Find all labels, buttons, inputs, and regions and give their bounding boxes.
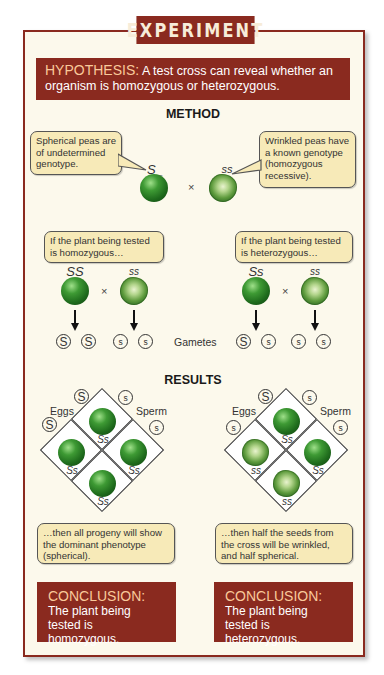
heterozygous-case-callout: If the plant being tested is heterozygou… <box>235 231 353 263</box>
cell-genotype: Ss <box>93 434 113 445</box>
egg-allele-S: S <box>258 389 273 404</box>
gamete-s: s <box>316 334 331 349</box>
arrow-down-icon <box>314 310 316 324</box>
cell-genotype: Ss <box>124 465 144 476</box>
sperm-allele-s: s <box>302 390 317 405</box>
arrow-down-icon <box>133 310 135 324</box>
hypothesis-label: HYPOTHESIS: <box>45 62 139 78</box>
eggs-label: Eggs <box>232 405 256 417</box>
sperm-allele-s: s <box>118 390 133 405</box>
cell-genotype: Ss <box>93 496 113 507</box>
conclusion-heterozygous: CONCLUSION: The plant being tested is he… <box>214 582 353 642</box>
heterozygous-result-callout: …then half the seeds from the cross will… <box>215 523 353 564</box>
cross-symbol: × <box>188 181 194 193</box>
genotype-ss: ss <box>215 163 239 175</box>
arrow-down-icon <box>74 310 76 324</box>
arrow-head-icon <box>71 323 79 331</box>
homozygous-result-callout: …then all progeny will show the dominant… <box>37 523 175 564</box>
spherical-pea-icon <box>242 277 270 305</box>
spherical-pea-icon <box>58 439 85 466</box>
egg-allele-S: S <box>42 417 57 432</box>
gamete-S: S <box>56 334 71 349</box>
cell-genotype: Ss <box>277 434 297 445</box>
cell-genotype: ss <box>277 496 297 507</box>
gamete-s: s <box>291 334 306 349</box>
gametes-label: Gametes <box>174 336 217 348</box>
homozygous-case-callout: If the plant being tested is homozygous… <box>44 231 164 263</box>
cross-symbol: × <box>282 285 288 297</box>
gamete-S: S <box>81 334 96 349</box>
arrow-down-icon <box>255 310 257 324</box>
conclusion-text: The plant being tested is heterozygous. <box>225 604 308 646</box>
cell-genotype: Ss <box>308 465 328 476</box>
wrinkled-callout: Wrinkled peas have a known genotype (hom… <box>259 131 356 188</box>
gamete-s: s <box>261 334 276 349</box>
arrow-head-icon <box>311 323 319 331</box>
arrow-head-icon <box>130 323 138 331</box>
conclusion-label: CONCLUSION: <box>225 588 342 604</box>
spherical-pea-icon <box>89 408 116 435</box>
spherical-pea-icon <box>89 470 116 497</box>
spherical-pea-icon <box>304 439 331 466</box>
method-title: METHOD <box>150 107 236 121</box>
cell-genotype: ss <box>246 465 266 476</box>
genotype-ss: ss <box>122 266 146 277</box>
arrow-head-icon <box>252 323 260 331</box>
gamete-s: s <box>138 334 153 349</box>
conclusion-homozygous: CONCLUSION: The plant being tested is ho… <box>37 582 176 642</box>
spherical-pea-icon <box>61 277 89 305</box>
cell-genotype: Ss <box>62 465 82 476</box>
genotype-ss: ss <box>303 266 327 277</box>
conclusion-text: The plant being tested is homozygous. <box>48 604 131 646</box>
egg-allele-S: S <box>74 389 89 404</box>
hypothesis-box: HYPOTHESIS: A test cross can reveal whet… <box>36 58 350 100</box>
sperm-label: Sperm <box>320 405 351 417</box>
gamete-S: S <box>236 334 251 349</box>
results-title: RESULTS <box>150 373 236 387</box>
spherical-pea-icon <box>120 439 147 466</box>
sperm-label: Sperm <box>136 405 167 417</box>
sperm-allele-s: s <box>333 420 348 435</box>
spherical-pea-icon <box>140 174 168 202</box>
conclusion-label: CONCLUSION: <box>48 588 165 604</box>
gamete-s: s <box>113 334 128 349</box>
sperm-allele-s: s <box>149 420 164 435</box>
experiment-banner: EXPERIMENT <box>136 16 254 44</box>
cross-symbol: × <box>101 285 107 297</box>
eggs-label: Eggs <box>50 405 74 417</box>
egg-allele-s: s <box>226 420 241 435</box>
spherical-callout: Spherical peas are of undetermined genot… <box>30 131 122 175</box>
spherical-pea-icon <box>273 408 300 435</box>
